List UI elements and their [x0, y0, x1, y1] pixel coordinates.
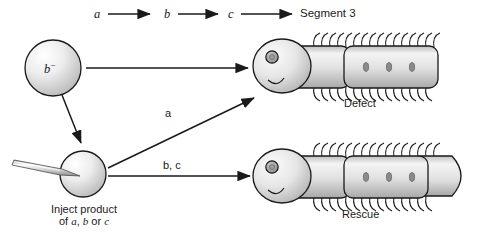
diagram-canvas: a b c Segment 3 b− a b, c Inject product… [0, 0, 477, 238]
inject-caption-of: of [59, 215, 71, 227]
inject-caption-c: c [104, 215, 109, 227]
arrow-label-b-c: b, c [163, 160, 181, 171]
rescue-label: Rescue [342, 209, 379, 220]
mutant-cell-label: b− [44, 61, 55, 76]
arrow-inject-to-defect [108, 98, 254, 168]
rescue-larva-graphic [253, 143, 461, 211]
inject-caption-or: or [88, 215, 104, 227]
defect-larva-graphic [253, 33, 440, 101]
mutant-cell-superscript: − [50, 60, 55, 70]
pathway-node-b: b [164, 8, 170, 21]
inject-caption-line1: Inject product [28, 203, 140, 215]
inject-caption-line2: of a, b or c [28, 215, 140, 227]
pathway-node-segment3: Segment 3 [300, 8, 356, 20]
arrow-mutant-to-injected [62, 95, 81, 143]
defect-label: Defect [344, 98, 376, 109]
pathway-node-a: a [94, 8, 100, 21]
arrow-label-a: a [165, 108, 171, 119]
pathway-node-c: c [228, 8, 234, 21]
inject-caption: Inject product of a, b or c [28, 203, 140, 227]
